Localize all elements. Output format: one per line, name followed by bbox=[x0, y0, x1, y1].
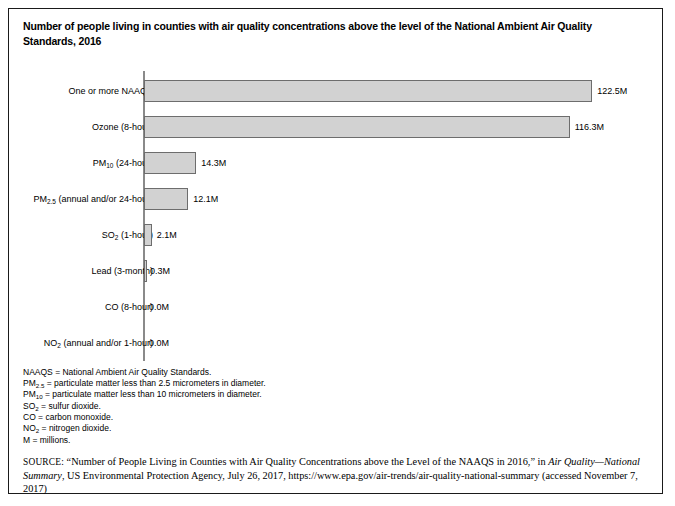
source-text-part2: , US Environmental Protection Agency, Ju… bbox=[23, 470, 638, 494]
bar-category-label: NO2 (annual and/or 1-hour) bbox=[44, 338, 153, 349]
bar-value-label: 12.1M bbox=[193, 194, 218, 204]
note-line: NAAQS = National Ambient Air Quality Sta… bbox=[23, 367, 623, 378]
bar-value-label: 0.3M bbox=[150, 266, 170, 276]
bar-row: One or more NAAQS122.5M bbox=[23, 73, 648, 109]
source-kicker: SOURCE: bbox=[23, 457, 64, 467]
bar bbox=[144, 152, 196, 174]
bar-row: CO (8-hour)0.0M bbox=[23, 289, 648, 325]
bar-category-label: One or more NAAQS bbox=[68, 86, 153, 97]
note-line: M = millions. bbox=[23, 435, 623, 446]
bar-row: SO2 (1-hour)2.1M bbox=[23, 217, 648, 253]
bar-row: NO2 (annual and/or 1-hour)0.0M bbox=[23, 325, 648, 361]
bar-category-label: CO (8-hour) bbox=[105, 302, 153, 313]
figure-notes: NAAQS = National Ambient Air Quality Sta… bbox=[23, 367, 623, 445]
figure-title: Number of people living in counties with… bbox=[23, 19, 633, 49]
bar-category-label: PM2.5 (annual and/or 24-hour) bbox=[33, 194, 153, 205]
bar bbox=[144, 260, 147, 282]
bar-value-label: 14.3M bbox=[201, 158, 226, 168]
note-line: SO2 = sulfur dioxide. bbox=[23, 401, 623, 413]
bar bbox=[144, 80, 592, 102]
bar-value-label: 2.1M bbox=[157, 230, 177, 240]
bar-value-label: 0.0M bbox=[149, 338, 169, 348]
bar-value-label: 116.3M bbox=[575, 122, 604, 132]
bar-row: Ozone (8-hour)116.3M bbox=[23, 109, 648, 145]
note-line: NO2 = nitrogen dioxide. bbox=[23, 423, 623, 435]
figure-source: SOURCE: “Number of People Living in Coun… bbox=[23, 455, 650, 496]
note-line: PM2.5 = particulate matter less than 2.5… bbox=[23, 378, 623, 390]
bar-value-label: 122.5M bbox=[597, 86, 627, 96]
bar bbox=[144, 224, 152, 246]
bar bbox=[144, 116, 570, 138]
bar-row: PM2.5 (annual and/or 24-hour)12.1M bbox=[23, 181, 648, 217]
note-line: PM10 = particulate matter less than 10 m… bbox=[23, 389, 623, 401]
source-text-part1: “Number of People Living in Counties wit… bbox=[64, 456, 548, 467]
bar-value-label: 0.0M bbox=[149, 302, 169, 312]
figure-frame: Number of people living in counties with… bbox=[8, 8, 663, 494]
bar-row: PM10 (24-hour)14.3M bbox=[23, 145, 648, 181]
bar-row: Lead (3-month)0.3M bbox=[23, 253, 648, 289]
bar bbox=[144, 188, 188, 210]
note-line: CO = carbon monoxide. bbox=[23, 412, 623, 423]
bar-chart: One or more NAAQS122.5MOzone (8-hour)116… bbox=[23, 71, 648, 361]
